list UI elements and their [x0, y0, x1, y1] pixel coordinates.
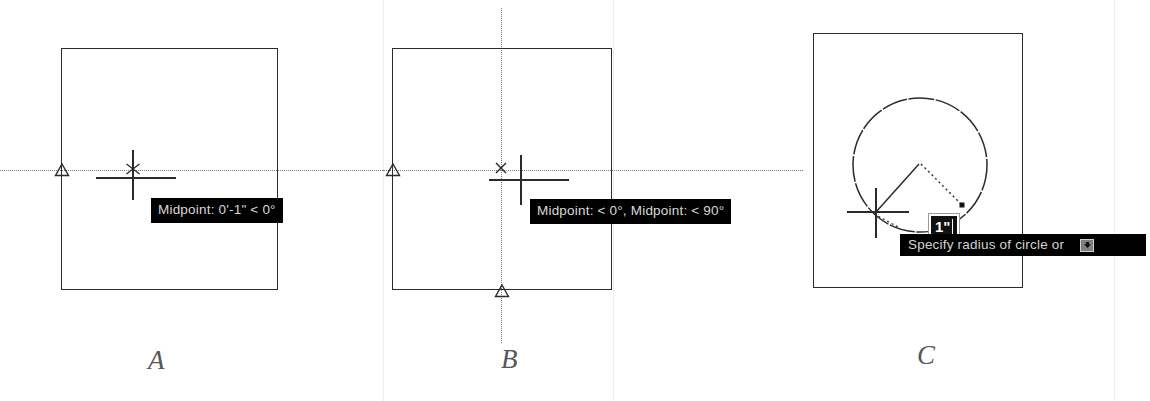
dynamic-input-prompt[interactable]: Specify radius of circle or: [900, 234, 1146, 256]
figure-canvas: Midpoint: 0'-1" < 0° A: [0, 0, 1150, 401]
crosshair-horizontal: [847, 211, 909, 213]
crosshair-cursor: [847, 188, 909, 238]
crosshair-vertical: [875, 188, 877, 238]
radius-dimension-value: 1": [935, 219, 950, 234]
down-arrow-icon[interactable]: [1080, 239, 1094, 252]
text-caret: [952, 219, 953, 234]
panel-caption-c: C: [917, 340, 935, 371]
prompt-label: Specify radius of circle or: [908, 238, 1064, 252]
panel-c: 1" Specify radius of circle or C: [0, 0, 1150, 401]
